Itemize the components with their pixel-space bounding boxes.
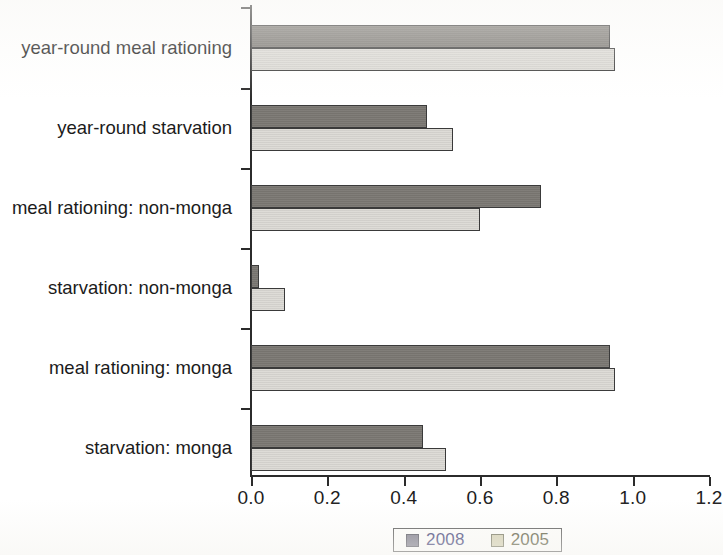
light-gray-swatch-icon	[491, 534, 504, 547]
x-tick	[480, 477, 482, 486]
legend-label-2005: 2005	[511, 530, 550, 550]
bar-2008-meal-rationing-monga	[251, 345, 610, 368]
x-tick-label: 0.6	[450, 487, 510, 509]
x-tick	[251, 477, 253, 486]
bar-2008-starvation-non-monga	[251, 265, 259, 288]
category-label: meal rationing: non-monga	[0, 198, 232, 218]
legend-item-2005: 2005	[491, 530, 550, 550]
chart-legend: 2008 2005	[393, 528, 562, 552]
x-tick	[556, 477, 558, 486]
x-tick-label: 1.0	[603, 487, 663, 509]
x-tick-label: 0.8	[526, 487, 586, 509]
y-axis-line	[250, 5, 252, 476]
category-label: year-round meal rationing	[0, 38, 232, 58]
bar-2005-meal-rationing-non-monga	[251, 208, 480, 231]
bar-2005-year-round-starvation	[251, 128, 453, 151]
bar-2008-meal-rationing-non-monga	[251, 185, 541, 208]
x-tick-label: 0.0	[221, 487, 281, 509]
y-tick	[241, 168, 251, 170]
bar-2005-year-round-meal-rationing	[251, 48, 615, 71]
bar-2005-meal-rationing-monga	[251, 368, 615, 391]
bar-2008-year-round-meal-rationing	[251, 25, 610, 48]
y-tick	[241, 408, 251, 410]
legend-label-2008: 2008	[426, 530, 465, 550]
y-tick	[241, 328, 251, 330]
bar-2005-starvation-non-monga	[251, 288, 285, 311]
category-label: year-round starvation	[0, 118, 232, 138]
category-label: starvation: monga	[0, 438, 232, 458]
x-tick	[404, 477, 406, 486]
x-tick	[709, 477, 711, 486]
x-tick-label: 0.4	[374, 487, 434, 509]
legend-item-2008: 2008	[406, 530, 465, 550]
y-tick	[241, 248, 251, 250]
dark-gray-swatch-icon	[406, 534, 419, 547]
x-tick-label: 0.2	[297, 487, 357, 509]
y-tick	[241, 88, 251, 90]
bar-chart-figure: year-round meal rationingyear-round star…	[0, 0, 723, 555]
bar-2008-starvation-monga	[251, 425, 423, 448]
bar-2008-year-round-starvation	[251, 105, 427, 128]
category-label: meal rationing: monga	[0, 358, 232, 378]
x-tick	[327, 477, 329, 486]
y-tick	[241, 7, 251, 9]
category-label: starvation: non-monga	[0, 278, 232, 298]
x-tick-label: 1.2	[679, 487, 723, 509]
bar-2005-starvation-monga	[251, 448, 446, 471]
x-tick	[633, 477, 635, 486]
